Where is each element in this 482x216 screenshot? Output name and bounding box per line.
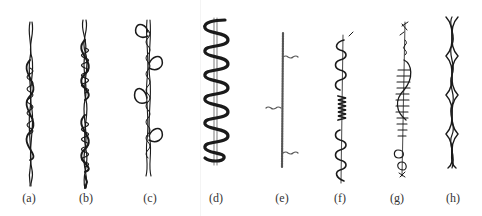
yarn-c-drawing: [135, 20, 163, 176]
yarn-d-drawing: [205, 18, 228, 165]
yarn-g-drawing: [394, 22, 410, 177]
panel-label-c: (c): [143, 191, 156, 206]
panel-label-h: (h): [446, 191, 460, 206]
panel-label-d: (d): [209, 191, 223, 206]
yarn-b-drawing: [81, 20, 89, 188]
panel-label-g: (g): [390, 191, 404, 206]
yarn-a-drawing: [27, 22, 34, 186]
panel-label-a: (a): [22, 191, 35, 206]
panel-label-e: (e): [275, 191, 288, 206]
yarn-drawings: [0, 0, 482, 216]
yarn-h-drawing: [446, 17, 458, 168]
panel-label-b: (b): [79, 191, 93, 206]
yarn-f-drawing: [336, 32, 354, 183]
yarn-diagram: (a) (b) (c) (d) (e) (f) (g) (h): [0, 0, 482, 216]
panel-label-f: (f): [334, 191, 346, 206]
yarn-e-drawing: [266, 33, 298, 167]
